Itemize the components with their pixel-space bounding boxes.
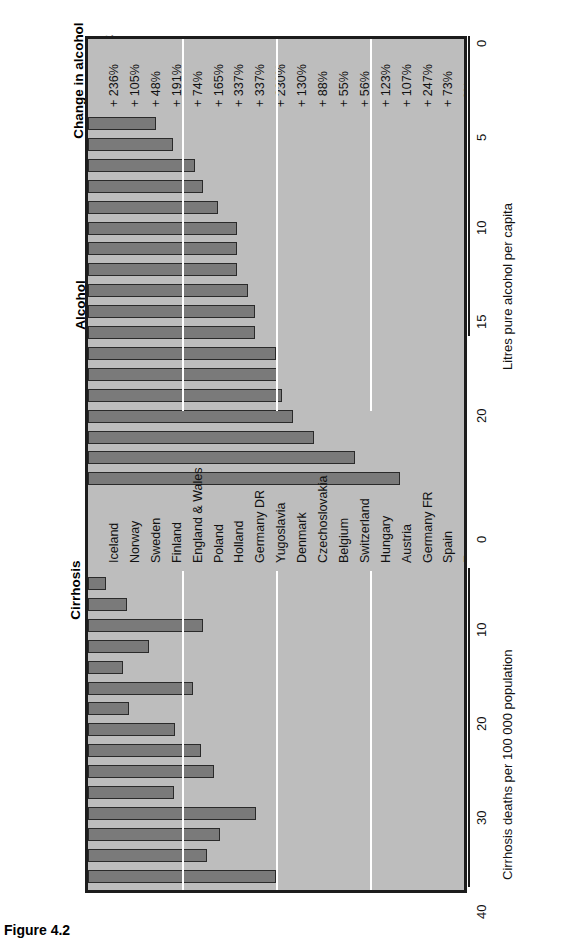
alcohol-axis-caption: Litres pure alcohol per capita [500,203,515,370]
percent-change-label: + 55% [337,71,351,107]
percent-change-label: + 105% [128,64,142,107]
cirrhosis-bar [88,849,207,862]
country-label: Germany FR [421,491,435,563]
percent-change-label: + 74% [191,71,205,107]
country-label: England & Wales [191,468,205,563]
gridline [182,571,184,890]
country-label: Yugoslavia [274,503,288,563]
percent-change-label: - 6% [462,81,467,107]
gridline [182,39,184,111]
axis-tick-label: 15 [474,315,489,329]
cirrhosis-bar [88,661,123,674]
axis-tick-label: 30 [474,811,489,825]
alcohol-bar [88,305,255,318]
alcohol-bar [88,284,248,297]
cirrhosis-band [88,571,464,890]
cirrhosis-bar [88,765,214,778]
axis-tick-label: 20 [474,717,489,731]
title-line: Change in alcohol [71,6,86,156]
cirrhosis-bar [88,619,203,632]
alcohol-bar [88,242,237,255]
gridline [370,111,372,411]
figure-caption: Figure 4.2 [4,922,70,938]
gridline [276,111,278,411]
axis-tick-label: 0 [474,40,489,47]
alcohol-bar [88,201,218,214]
country-label: Finland [170,522,184,563]
gridline [370,571,372,890]
country-label: Spain [441,531,455,563]
axis-tick-label: 5 [474,134,489,141]
alcohol-bar [88,117,156,130]
country-label: Sweden [149,518,163,563]
country-label: Norway [128,521,142,563]
country-label: Hungary [379,516,393,563]
country-label: Czechoslovakia [316,475,330,563]
axis-tick-label: 20 [474,409,489,423]
country-label: Belgium [337,518,351,563]
country-label: Iceland [107,523,121,563]
axis-tick-label: 10 [474,221,489,235]
percent-change-label: + 337% [232,64,246,107]
cirrhosis-bar [88,577,106,590]
percent-change-label: + 337% [253,64,267,107]
percent-change-label: + 165% [212,64,226,107]
alcohol-axis-line [468,36,470,336]
percent-change-label: + 107% [400,64,414,107]
percent-change-label: + 48% [149,71,163,107]
gridline [276,39,278,111]
alcohol-bar [88,159,195,172]
axis-tick-label: 0 [474,536,489,543]
cirrhosis-bar [88,640,149,653]
alcohol-bar [88,138,173,151]
percent-change-band: + 236%+ 105%+ 48%+ 191%+ 74%+ 165%+ 337%… [88,39,464,111]
alcohol-bar [88,326,255,339]
cirrhosis-bar [88,807,256,820]
country-label: France [462,524,467,563]
percent-change-label: + 123% [379,64,393,107]
cirrhosis-bar-row [88,891,464,894]
title-line: Cirrhosis [68,525,83,655]
gridline [370,39,372,111]
axis-tick-label: 10 [474,623,489,637]
country-label-band: IcelandNorwaySwedenFinlandEngland & Wale… [88,411,464,571]
country-label: Denmark [295,512,309,563]
cirrhosis-bar [88,723,175,736]
cirrhosis-bar [88,786,174,799]
alcohol-bar [88,263,237,276]
country-label: Switzerland [358,498,372,563]
alcohol-bar [88,222,237,235]
percent-change-label: + 130% [295,64,309,107]
country-label: Germany DR [253,490,267,563]
cirrhosis-axis-line [468,568,470,887]
alcohol-bar [88,180,203,193]
cirrhosis-bar [88,702,129,715]
percent-change-label: + 236% [107,64,121,107]
percent-change-label: + 73% [441,71,455,107]
cirrhosis-bar [88,828,220,841]
country-label: Holland [232,521,246,563]
country-label: Poland [212,524,226,563]
percent-change-label: + 247% [421,64,435,107]
gridline [182,111,184,411]
country-label: Austria [400,524,414,563]
cirrhosis-bar [88,598,127,611]
gridline [276,571,278,890]
percent-change-label: + 88% [316,71,330,107]
axis-tick-label: 40 [474,905,489,919]
cirrhosis-bar [88,682,193,695]
figure-4-2: Change in alcoholconsumptionsince 1950–5… [0,0,561,952]
alcohol-consumption-band [88,111,464,411]
alcohol-bar [88,389,282,402]
cirrhosis-bar [88,891,400,894]
chart-panel: + 236%+ 105%+ 48%+ 191%+ 74%+ 165%+ 337%… [85,36,467,893]
cirrhosis-axis-caption: Cirrhosis deaths per 100 000 population [500,649,515,880]
